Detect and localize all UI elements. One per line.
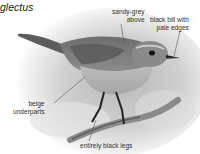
species-title: glectus — [0, 1, 33, 13]
annotation-line: pale edges — [150, 24, 189, 32]
annotation-black-legs: entirely black legs — [80, 142, 132, 150]
annotation-line: underparts — [13, 108, 45, 116]
annotation-line: entirely black legs — [80, 142, 132, 150]
annotation-beige-underparts: beige underparts — [13, 100, 45, 115]
annotation-line: beige — [13, 100, 45, 108]
annotation-line: black bill with — [150, 16, 189, 24]
annotation-line: above — [112, 16, 145, 24]
annotation-line: sandy-grey — [112, 8, 145, 16]
annotation-black-bill: black bill with pale edges — [150, 16, 189, 31]
bird-illustration-panel: glectus sandy-grey above black bill with… — [0, 0, 200, 154]
annotation-sandy-grey-above: sandy-grey above — [112, 8, 145, 23]
